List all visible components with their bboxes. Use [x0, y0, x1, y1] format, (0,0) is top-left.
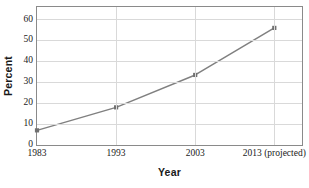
y-axis-tick-label: 30 [14, 78, 36, 88]
x-axis-tick-label: 1993 [107, 148, 126, 159]
y-axis-tick-label: 60 [14, 15, 36, 25]
gridline-horizontal [37, 40, 302, 41]
x-axis-tick-label: 1983 [28, 148, 47, 159]
plot-area [36, 6, 303, 146]
x-axis-tick-labels: 1983199320032013 (projected) [0, 148, 309, 164]
x-axis-tick-label: 2013 (projected) [243, 148, 306, 159]
gridline-horizontal [37, 82, 302, 83]
series-line [37, 28, 274, 130]
x-axis-tick-label: 2003 [186, 148, 205, 159]
gridline-horizontal [37, 19, 302, 20]
gridline-horizontal [37, 103, 302, 104]
gridline-vertical [195, 7, 196, 145]
gridline-horizontal [37, 124, 302, 125]
data-point-marker [35, 128, 39, 132]
y-axis-tick-label: 10 [14, 119, 36, 129]
line-chart-figure: Percent 0102030405060 1983199320032013 (… [0, 0, 309, 188]
gridline-vertical [274, 7, 275, 145]
y-axis-tick-label: 50 [14, 36, 36, 46]
x-axis-title: Year [36, 166, 303, 178]
y-axis-tick-label: 40 [14, 57, 36, 67]
y-axis-tick-label: 20 [14, 98, 36, 108]
gridline-vertical [116, 7, 117, 145]
gridline-horizontal [37, 61, 302, 62]
y-axis-title-text: Percent [2, 56, 14, 96]
